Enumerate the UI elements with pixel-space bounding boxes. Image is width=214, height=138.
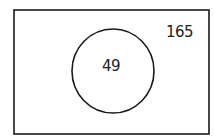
universal-set-count: 165 xyxy=(166,25,193,40)
set-count: 49 xyxy=(102,59,120,74)
